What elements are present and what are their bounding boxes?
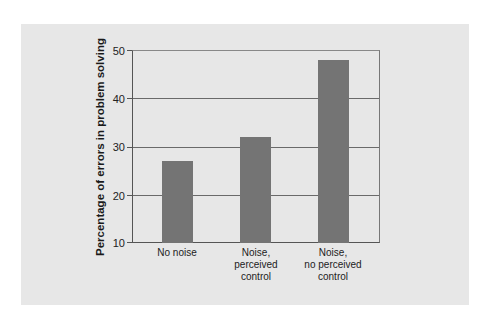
y-tick-label: 50 — [103, 45, 125, 57]
x-label-noise-no-perceived-control: Noise, no perceived control — [288, 247, 378, 283]
y-tick — [127, 242, 132, 243]
x-label-no-noise: No noise — [132, 247, 222, 259]
bar-noise-perceived-control — [240, 137, 271, 243]
bar-no-noise — [162, 161, 193, 243]
y-tick-label: 30 — [103, 141, 125, 153]
y-tick — [127, 98, 132, 99]
y-tick — [127, 50, 132, 51]
bar-noise-no-perceived-control — [318, 60, 349, 243]
y-tick-label: 20 — [103, 190, 125, 202]
y-tick-label: 10 — [103, 237, 125, 249]
y-tick-label: 40 — [103, 93, 125, 105]
y-tick — [127, 195, 132, 196]
y-tick — [127, 147, 132, 148]
